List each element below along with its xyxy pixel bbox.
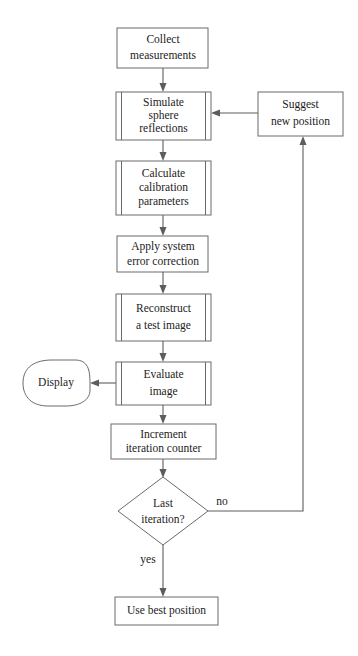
node-collect-line-0: Collect [146,33,180,45]
edge-label-no: no [216,495,228,507]
node-calculate-line-0: Calculate [142,167,185,179]
node-decision-line-1: iteration? [141,513,184,525]
flowchart-svg: no yes Collect measurements Simulate sph… [0,0,358,656]
node-suggest-line-0: Suggest [282,98,319,111]
node-decision-line-0: Last [153,497,174,509]
edge-decision-no-to-suggest [208,136,307,511]
node-calculate-line-2: parameters [138,195,189,208]
node-use-best-label: Use best position [127,604,206,617]
node-suggest-line-1: new position [271,115,330,128]
node-display[interactable]: Display [23,360,90,406]
node-calculate-calibration-parameters[interactable]: Calculate calibration parameters [116,161,211,215]
edge-increment-to-decision [160,459,167,478]
node-apply-system-error-correction[interactable]: Apply system error correction [117,236,208,272]
edge-reconstruct-to-evaluate [160,341,167,362]
flowchart-canvas: no yes Collect measurements Simulate sph… [0,0,358,656]
edge-evaluate-to-display [90,380,116,387]
edge-decision-yes-to-use-best [160,545,167,597]
edge-apply-to-reconstruct [160,272,167,294]
node-collect-measurements[interactable]: Collect measurements [117,28,208,68]
edge-label-yes: yes [140,553,156,566]
edge-simulate-to-calculate [160,140,167,161]
node-increment-iteration-counter[interactable]: Increment iteration counter [111,424,216,459]
edge-calculate-to-apply [160,215,167,236]
node-apply-line-0: Apply system [131,240,195,253]
node-use-best-position[interactable]: Use best position [115,597,218,625]
node-reconstruct-line-1: a test image [136,319,191,332]
node-calculate-line-1: calibration [139,181,188,193]
node-increment-line-0: Increment [140,428,187,440]
node-simulate-line-1: sphere [148,109,178,122]
node-simulate-line-2: reflections [139,122,188,134]
node-evaluate-line-0: Evaluate [143,368,183,380]
node-collect-line-1: measurements [130,49,196,61]
node-evaluate-line-1: image [149,385,177,398]
node-apply-line-1: error correction [127,255,199,267]
node-simulate-sphere-reflections[interactable]: Simulate sphere reflections [116,92,211,140]
node-reconstruct-test-image[interactable]: Reconstruct a test image [116,294,211,341]
node-suggest-new-position[interactable]: Suggest new position [258,92,343,136]
edge-suggest-to-simulate [211,110,258,117]
node-last-iteration-decision[interactable]: Last iteration? [118,477,208,545]
node-display-label: Display [38,376,74,389]
node-simulate-line-0: Simulate [143,96,184,108]
node-reconstruct-line-0: Reconstruct [136,302,192,314]
node-evaluate-image[interactable]: Evaluate image [116,362,211,405]
node-increment-line-1: iteration counter [126,442,202,454]
edge-evaluate-to-increment [160,405,167,424]
edge-collect-to-simulate [160,68,167,92]
